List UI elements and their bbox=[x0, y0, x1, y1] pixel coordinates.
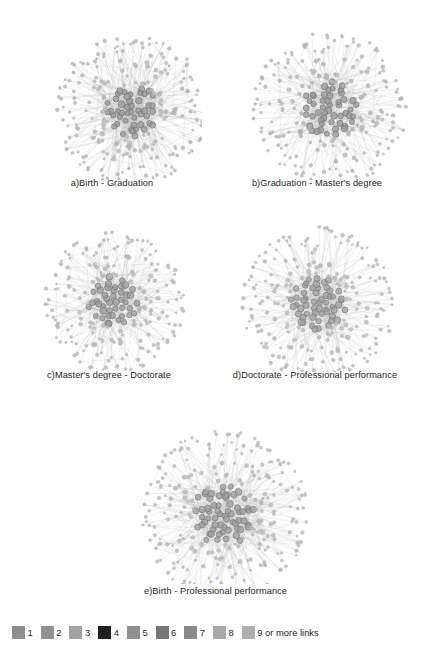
network-leaf-node bbox=[243, 579, 246, 582]
legend-label: 5 bbox=[142, 626, 147, 639]
network-leaf-node bbox=[227, 546, 231, 550]
network-leaf-node bbox=[171, 578, 173, 580]
network-leaf-node bbox=[369, 353, 371, 355]
network-leaf-node bbox=[106, 80, 109, 83]
network-leaf-node bbox=[201, 564, 205, 568]
network-leaf-node bbox=[234, 543, 237, 546]
network-leaf-node bbox=[260, 446, 263, 449]
network-leaf-node bbox=[260, 130, 263, 133]
network-hub-node bbox=[348, 107, 353, 112]
network-leaf-node bbox=[170, 166, 173, 169]
network-leaf-node bbox=[339, 279, 342, 282]
network-leaf-node bbox=[322, 170, 326, 174]
legend-label: 7 bbox=[200, 626, 205, 639]
network-leaf-node bbox=[236, 448, 238, 450]
network-leaf-node bbox=[245, 327, 247, 329]
network-hub-node bbox=[225, 527, 231, 533]
network-leaf-node bbox=[186, 475, 190, 479]
network-leaf-node bbox=[379, 163, 382, 166]
network-leaf-node bbox=[275, 135, 279, 139]
network-leaf-node bbox=[360, 70, 363, 73]
network-hub-node bbox=[117, 88, 123, 94]
network-hub-node bbox=[112, 124, 117, 129]
network-leaf-node bbox=[351, 235, 354, 238]
network-leaf-node bbox=[243, 283, 247, 287]
network-leaf-node bbox=[271, 533, 275, 537]
network-leaf-node bbox=[366, 360, 369, 363]
network-panel-c: c)Master's degree - Doctorate bbox=[14, 212, 204, 402]
network-hub-node bbox=[123, 300, 128, 305]
network-leaf-node bbox=[260, 111, 263, 114]
network-leaf-node bbox=[375, 351, 378, 354]
network-leaf-node bbox=[175, 549, 179, 553]
network-leaf-node bbox=[208, 447, 211, 450]
network-leaf-node bbox=[79, 317, 83, 321]
network-leaf-node bbox=[285, 144, 288, 147]
network-leaf-node bbox=[155, 560, 159, 564]
network-leaf-node bbox=[215, 433, 218, 436]
network-hub-node bbox=[293, 286, 299, 292]
network-leaf-node bbox=[147, 279, 150, 282]
network-leaf-node bbox=[351, 169, 354, 172]
network-leaf-node bbox=[346, 335, 350, 339]
network-leaf-node bbox=[335, 168, 337, 170]
network-leaf-node bbox=[154, 546, 158, 550]
network-leaf-node bbox=[164, 61, 168, 65]
network-leaf-node bbox=[348, 236, 351, 239]
network-leaf-node bbox=[88, 366, 92, 370]
network-panel-e: e)Birth - Professional performance bbox=[108, 414, 323, 614]
network-hub-node bbox=[208, 531, 214, 537]
network-leaf-node bbox=[101, 274, 105, 278]
network-leaf-node bbox=[166, 341, 169, 344]
network-leaf-node bbox=[352, 41, 355, 44]
network-leaf-node bbox=[320, 346, 324, 350]
network-leaf-node bbox=[63, 294, 66, 297]
network-graph-e bbox=[108, 414, 323, 584]
network-hub-node bbox=[327, 288, 333, 294]
network-hub-node bbox=[117, 114, 122, 119]
network-leaf-node bbox=[223, 543, 227, 547]
network-leaf-node bbox=[260, 329, 264, 333]
network-leaf-node bbox=[285, 326, 289, 330]
network-leaf-node bbox=[310, 350, 313, 353]
panel-caption-d: d)Doctorate - Professional performance bbox=[212, 370, 418, 381]
network-leaf-node bbox=[346, 82, 349, 85]
network-leaf-node bbox=[294, 339, 297, 342]
network-leaf-node bbox=[123, 84, 126, 87]
network-leaf-node bbox=[143, 307, 146, 310]
network-leaf-node bbox=[54, 273, 58, 277]
network-leaf-node bbox=[52, 316, 55, 319]
network-leaf-node bbox=[276, 302, 279, 305]
network-leaf-node bbox=[256, 530, 259, 533]
network-leaf-node bbox=[116, 51, 119, 54]
network-leaf-node bbox=[172, 281, 176, 285]
network-leaf-node bbox=[47, 298, 50, 301]
network-leaf-node bbox=[210, 551, 214, 555]
network-leaf-node bbox=[236, 544, 240, 548]
network-leaf-node bbox=[136, 239, 139, 242]
network-hub-node bbox=[229, 511, 235, 517]
network-leaf-node bbox=[251, 465, 254, 468]
network-hub-node bbox=[298, 319, 305, 326]
network-leaf-node bbox=[93, 80, 96, 83]
network-leaf-node bbox=[142, 133, 145, 136]
network-leaf-node bbox=[95, 251, 98, 254]
network-leaf-node bbox=[85, 109, 88, 112]
network-leaf-node bbox=[391, 140, 394, 143]
network-leaf-node bbox=[106, 325, 109, 328]
network-leaf-node bbox=[182, 309, 185, 312]
network-leaf-node bbox=[236, 434, 240, 438]
network-leaf-node bbox=[166, 72, 169, 75]
network-leaf-node bbox=[234, 573, 237, 576]
network-leaf-node bbox=[94, 76, 97, 79]
network-leaf-node bbox=[300, 112, 304, 116]
network-leaf-node bbox=[181, 114, 184, 117]
network-leaf-node bbox=[278, 99, 282, 103]
network-leaf-node bbox=[287, 331, 290, 334]
legend-swatch bbox=[12, 626, 25, 639]
network-leaf-node bbox=[346, 170, 349, 173]
network-leaf-node bbox=[372, 172, 375, 175]
network-leaf-node bbox=[361, 247, 364, 250]
network-leaf-node bbox=[264, 548, 267, 551]
network-leaf-node bbox=[359, 95, 364, 100]
